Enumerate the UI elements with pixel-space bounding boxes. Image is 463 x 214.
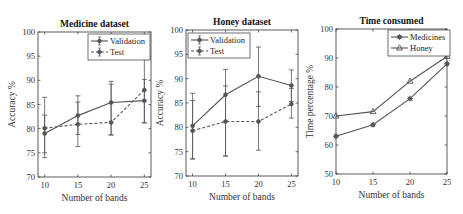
y-tick-label: 100 [22, 27, 35, 37]
x-axis-label: Number of bands [209, 192, 275, 202]
y-tick-label: 95 [27, 51, 36, 61]
chart-title: Time consumed [360, 16, 425, 26]
y-tick-label: 90 [27, 75, 36, 85]
y-tick-label: 75 [27, 148, 36, 158]
y-tick-label: 75 [175, 147, 184, 157]
x-tick-label: 25 [443, 177, 452, 187]
x-tick-label: 10 [332, 177, 341, 187]
x-tick-label: 20 [254, 179, 263, 189]
legend-label: Validation [210, 35, 246, 45]
x-tick-label: 15 [369, 177, 378, 187]
y-tick-label: 70 [27, 172, 36, 182]
x-tick-label: 15 [221, 179, 230, 189]
series-validation [190, 47, 294, 159]
legend-label: Validation [110, 36, 146, 46]
y-tick-label: 70 [325, 111, 334, 121]
chart-2: Honey dataset70758085909510010152025Numb… [155, 17, 298, 202]
y-tick-label: 90 [325, 53, 334, 63]
chart-1: Medicine dataset70758085909510010152025N… [7, 19, 151, 203]
x-tick-label: 15 [74, 180, 83, 190]
chart-3: Time consumed506070809010010152025Number… [305, 16, 451, 200]
y-axis-label: Time percentage % [305, 65, 315, 139]
y-tick-label: 80 [175, 122, 184, 132]
y-tick-label: 80 [27, 124, 36, 134]
legend-label: Honey [410, 43, 433, 53]
legend: ValidationTest [88, 34, 150, 60]
y-axis-label: Accuracy % [155, 80, 165, 127]
legend-label: Test [210, 46, 225, 56]
y-tick-label: 90 [175, 74, 184, 84]
y-tick-label: 85 [175, 98, 184, 108]
series-honey [333, 53, 450, 118]
chart-title: Honey dataset [213, 17, 272, 27]
y-tick-label: 70 [175, 171, 184, 181]
x-tick-label: 25 [140, 180, 149, 190]
x-tick-label: 20 [107, 180, 116, 190]
y-tick-label: 95 [175, 49, 184, 59]
y-axis-label: Accuracy % [7, 81, 17, 128]
x-tick-label: 25 [287, 179, 296, 189]
legend-label: Test [110, 47, 125, 57]
x-tick-label: 10 [188, 179, 197, 189]
y-tick-label: 100 [170, 25, 183, 35]
y-tick-label: 85 [27, 100, 36, 110]
series-test [42, 58, 147, 153]
legend: MedicinesHoney [388, 30, 450, 56]
x-tick-label: 10 [40, 180, 49, 190]
x-axis-label: Number of bands [62, 193, 128, 203]
y-tick-label: 60 [325, 140, 334, 150]
chart-title: Medicine dataset [60, 19, 130, 29]
legend-label: Medicines [410, 32, 445, 42]
x-axis-label: Number of bands [359, 190, 425, 200]
series-test [190, 86, 294, 159]
figure: Medicine dataset70758085909510010152025N… [0, 0, 463, 214]
legend: ValidationTest [188, 33, 250, 58]
y-tick-label: 80 [325, 82, 334, 92]
x-tick-label: 20 [406, 177, 415, 187]
series-medicines [333, 61, 450, 140]
series-validation [42, 79, 147, 157]
y-tick-label: 100 [320, 24, 333, 34]
